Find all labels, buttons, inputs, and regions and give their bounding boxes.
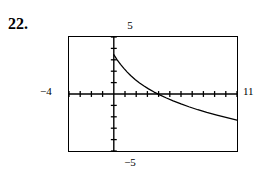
window-xmin-label: −4 [40,86,52,97]
curve-path [114,55,237,121]
problem-number-label: 22. [8,16,28,32]
calculator-viewport [68,36,238,152]
window-ymax-label: 5 [45,20,215,31]
graph-plot [69,37,237,151]
window-ymin-label: −5 [45,157,215,168]
window-xmax-label: 11 [243,86,254,97]
figure-container: 22. 5 −5 −4 11 [0,0,267,182]
